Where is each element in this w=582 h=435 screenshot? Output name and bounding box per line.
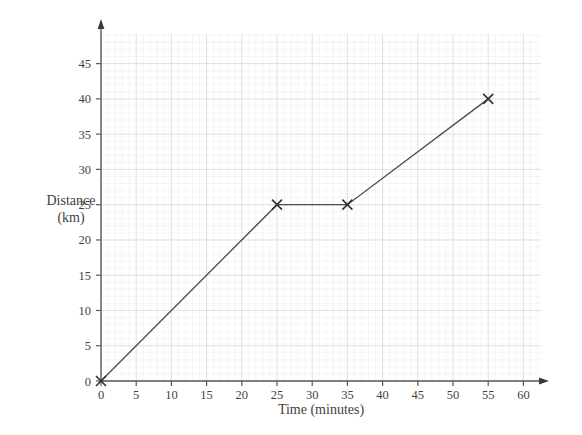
y-axis-ticks [96,64,101,381]
y-tick-label: 20 [79,233,92,247]
distance-time-chart: 051015202530354045 051015202530354045505… [0,0,582,435]
x-tick-label: 55 [482,388,495,402]
plot-background [101,34,541,381]
y-tick-label: 30 [79,163,92,177]
y-tick-label: 45 [79,57,92,71]
x-tick-label: 20 [236,388,249,402]
x-tick-label: 45 [412,388,425,402]
chart-svg: 051015202530354045 051015202530354045505… [0,0,582,435]
x-tick-label: 40 [376,388,389,402]
x-tick-label: 5 [133,388,139,402]
x-axis-tick-labels: 051015202530354045505560 [98,388,530,402]
x-axis-ticks [101,381,523,386]
x-tick-label: 25 [271,388,284,402]
y-tick-label: 5 [85,339,91,353]
y-axis-title-line2: (km) [57,210,85,226]
x-tick-label: 50 [447,388,460,402]
x-axis-title: Time (minutes) [278,402,365,418]
x-tick-label: 10 [165,388,178,402]
y-tick-label: 0 [85,375,91,389]
x-tick-label: 35 [341,388,354,402]
x-tick-label: 0 [98,388,104,402]
y-tick-label: 40 [79,92,92,106]
y-tick-label: 10 [79,304,92,318]
x-tick-label: 15 [200,388,213,402]
y-tick-label: 35 [79,128,92,142]
x-tick-label: 60 [517,388,530,402]
y-axis-title-line1: Distance [47,193,96,208]
x-tick-label: 30 [306,388,319,402]
y-tick-label: 15 [79,269,92,283]
